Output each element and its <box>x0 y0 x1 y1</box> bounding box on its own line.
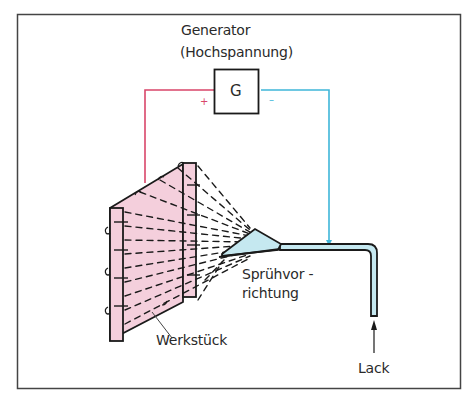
workpiece-front-flange <box>110 208 123 341</box>
spray-device-label-2: richtung <box>242 285 299 301</box>
generator-label: Generator <box>181 22 250 38</box>
generator-sublabel: (Hochspannung) <box>180 44 293 60</box>
electrostatic-painting-diagram <box>0 0 474 404</box>
plus-sign: + <box>200 96 208 107</box>
paint-label: Lack <box>358 360 389 376</box>
generator-symbol: G <box>230 82 241 100</box>
workpiece-label: Werkstück <box>156 332 227 348</box>
spray-device-label: Sprühvor - <box>242 266 313 282</box>
workpiece-back-flange <box>183 163 196 297</box>
minus-sign: – <box>269 94 274 105</box>
